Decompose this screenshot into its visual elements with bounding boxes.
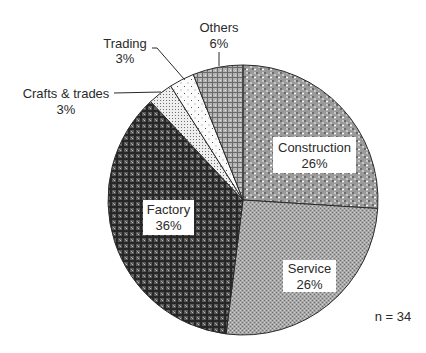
sample-size-annotation: n = 34 xyxy=(375,309,412,324)
label-service-name: Service xyxy=(288,261,331,276)
label-trading-pct: 3% xyxy=(116,51,135,66)
leader-line-crafts xyxy=(114,92,161,93)
label-service-pct: 26% xyxy=(296,277,322,292)
pie-chart: Construction 26% Service 26% Factory 36%… xyxy=(0,0,426,353)
label-others-pct: 6% xyxy=(210,36,229,51)
label-construction-pct: 26% xyxy=(301,156,327,171)
label-others-name: Others xyxy=(199,20,239,35)
label-crafts-name: Crafts & trades xyxy=(23,86,110,101)
label-factory-name: Factory xyxy=(147,202,191,217)
label-trading-name: Trading xyxy=(103,36,147,51)
label-factory-pct: 36% xyxy=(155,218,181,233)
label-crafts-pct: 3% xyxy=(57,102,76,117)
leader-line-trading xyxy=(152,48,184,79)
label-construction-name: Construction xyxy=(278,140,351,155)
pie-slice-construction xyxy=(243,65,378,208)
